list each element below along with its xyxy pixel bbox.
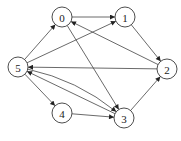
node-4: 4 [52,103,72,123]
node-label: 2 [164,64,170,76]
node-0: 0 [52,7,72,27]
node-5: 5 [8,57,28,77]
edge-5-to-0 [25,25,56,60]
node-2: 2 [157,59,177,79]
edge-2-to-0 [71,21,158,64]
edge-1-to-2 [131,25,160,61]
node-label: 4 [59,108,65,120]
node-label: 3 [121,113,127,125]
node-3: 3 [114,108,134,128]
node-label: 5 [15,62,21,74]
directed-graph: 012345 [0,0,181,141]
edges-layer [25,17,161,117]
node-1: 1 [115,7,135,27]
node-label: 1 [122,12,128,24]
edge-5-to-3 [28,69,116,112]
edge-5-to-4 [25,74,55,106]
edge-4-to-3 [72,114,114,117]
edge-3-to-2 [131,77,161,111]
node-label: 0 [59,12,65,24]
edge-3-to-5 [27,71,115,113]
